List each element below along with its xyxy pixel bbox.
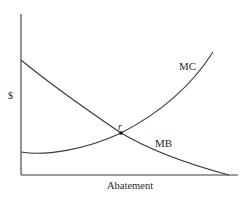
mc-label: MC	[179, 60, 196, 72]
chart-container: r MC MB $ Abatement	[0, 0, 251, 201]
point-r-label: r	[118, 121, 122, 132]
x-axis-label: Abatement	[107, 180, 153, 191]
mb-label: MB	[155, 137, 172, 149]
y-axis-label: $	[8, 90, 13, 101]
chart-svg: r MC MB $ Abatement	[0, 0, 251, 201]
mb-curve	[21, 60, 229, 175]
